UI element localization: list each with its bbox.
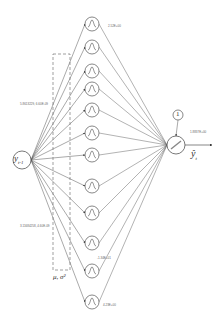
hidden-neuron — [85, 264, 99, 278]
output-edge — [99, 145, 167, 186]
output-edge — [99, 145, 167, 302]
hidden-neuron — [85, 17, 99, 31]
parameter-box — [53, 54, 70, 270]
hidden-neuron — [85, 206, 99, 220]
weight-label: 5.8613229, 6.60E-09 — [20, 102, 48, 106]
hidden-layer — [85, 17, 99, 309]
input-edge — [31, 160, 85, 186]
hidden-neuron — [85, 126, 99, 140]
hidden-neuron — [85, 64, 99, 78]
output-edge — [99, 24, 167, 145]
hidden-neuron — [85, 179, 99, 193]
hidden-neuron — [85, 103, 99, 117]
input-edge — [31, 24, 85, 160]
weight-label: 1.8837E+00 — [190, 130, 206, 134]
hidden-neuron — [85, 40, 99, 54]
output-edge — [99, 145, 167, 155]
input-node-label: yt-1 — [14, 153, 24, 165]
input-edge — [31, 160, 85, 271]
input-edge — [31, 160, 85, 213]
input-edges — [31, 24, 85, 302]
weight-label: -1.34E+01 — [97, 256, 111, 260]
hidden-neuron — [85, 295, 99, 309]
output-edge — [99, 47, 167, 145]
hidden-neuron — [85, 82, 99, 96]
output-edge — [99, 145, 167, 271]
hidden-neuron — [85, 236, 99, 250]
output-edge — [99, 145, 167, 243]
input-edge — [31, 110, 85, 160]
weight-label: 3.11684258, 4.60E-09 — [20, 224, 49, 228]
bias-label: 1 — [176, 110, 180, 118]
bias-edge — [176, 120, 178, 136]
rbf-network-diagram — [0, 0, 223, 327]
output-edge — [99, 133, 167, 145]
output-label: ŷt — [191, 148, 197, 161]
weight-label: 4.23E+00 — [103, 303, 116, 307]
output-edges — [99, 24, 167, 302]
output-edge — [99, 71, 167, 145]
hidden-neuron — [85, 148, 99, 162]
parameter-box-label: μ, σ² — [53, 273, 66, 281]
output-edge — [99, 89, 167, 145]
output-edge — [99, 110, 167, 145]
input-edge — [31, 89, 85, 160]
weight-label: 2.52E+00 — [108, 24, 121, 28]
output-edge — [99, 145, 167, 213]
